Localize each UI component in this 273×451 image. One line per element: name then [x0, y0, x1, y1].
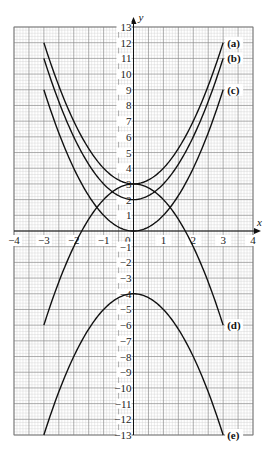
y-tick-label: −12 — [114, 413, 131, 425]
x-tick-label: −2 — [68, 234, 80, 246]
curve-label-d: (d) — [227, 319, 241, 332]
y-tick-label: 6 — [126, 131, 132, 143]
x-tick-label: −3 — [38, 234, 50, 246]
y-tick-label: 4 — [126, 162, 132, 174]
y-tick-label: −8 — [120, 351, 132, 363]
curve-label-a: (a) — [227, 37, 240, 50]
y-tick-label: 5 — [126, 147, 132, 159]
y-tick-label: 13 — [121, 21, 133, 33]
x-tick-label: 4 — [250, 234, 256, 246]
y-tick-label: 9 — [126, 84, 132, 96]
y-tick-label: −7 — [120, 335, 132, 347]
x-axis-label: x — [256, 216, 262, 228]
y-tick-label: 7 — [126, 115, 132, 127]
curve-label-e: (e) — [227, 429, 240, 442]
y-tick-label: −9 — [120, 366, 132, 378]
y-tick-label: 10 — [121, 68, 133, 80]
y-tick-label: 1 — [126, 209, 132, 221]
y-tick-label: 12 — [121, 37, 132, 49]
x-tick-label: −1 — [98, 234, 110, 246]
y-tick-label: −2 — [120, 256, 132, 268]
y-tick-label: −1 — [120, 241, 132, 253]
y-tick-label: −11 — [115, 398, 132, 410]
y-tick-label: −13 — [114, 429, 132, 441]
x-tick-label: 1 — [161, 234, 167, 246]
curve-label-c: (c) — [227, 84, 240, 97]
y-tick-label: −5 — [120, 303, 132, 315]
x-tick-label: −4 — [8, 234, 20, 246]
parabola-graph: xy −4−3−2−112340−13−12−11−10−9−8−7−6−5−4… — [0, 0, 273, 451]
y-tick-label: −10 — [114, 382, 132, 394]
x-tick-label: 3 — [220, 234, 226, 246]
y-tick-label: −6 — [120, 319, 132, 331]
curve-label-b: (b) — [227, 52, 241, 65]
y-tick-label: 11 — [121, 52, 132, 64]
y-tick-label: −3 — [120, 272, 132, 284]
axes: xy — [14, 11, 262, 435]
y-tick-label: 8 — [126, 99, 132, 111]
y-axis-label: y — [138, 11, 144, 23]
